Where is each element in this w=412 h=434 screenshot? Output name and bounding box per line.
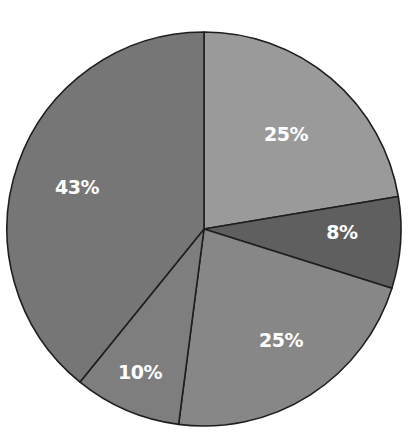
- slice-label-4: 10%: [118, 361, 162, 383]
- slice-label-2: 8%: [326, 221, 358, 243]
- slice-label-3: 25%: [259, 329, 303, 351]
- pie-chart: 25% 8% 25% 10% 43%: [0, 0, 412, 434]
- slice-label-1: 25%: [264, 123, 308, 145]
- slice-label-5: 43%: [55, 176, 99, 198]
